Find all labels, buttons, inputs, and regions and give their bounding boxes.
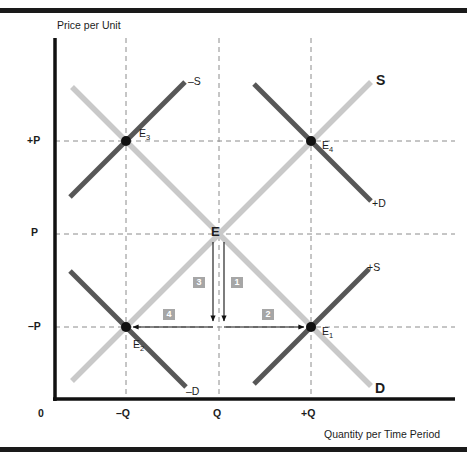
y-tick-minus-p: –P: [28, 320, 41, 332]
plot-canvas: [0, 13, 467, 447]
y-axis-title: Price per Unit: [57, 19, 121, 31]
curve-label-supply-base: S: [376, 72, 385, 88]
equilibrium-label-e: E: [211, 224, 220, 239]
equilibrium-label-e3-sub: 3: [146, 133, 150, 142]
shift-badge-1: 1: [231, 277, 243, 288]
curve-label-demand-shift-right: +D: [372, 197, 386, 209]
x-axis-title: Quantity per Time Period: [324, 428, 440, 440]
x-tick-minus-q: –Q: [116, 407, 130, 419]
equilibrium-label-e-text: E: [211, 224, 220, 239]
equilibrium-label-e1: E1: [322, 325, 333, 340]
curve-label-supply-shift-right: +S: [367, 261, 380, 273]
curve-label-demand-shift-left: –D: [186, 385, 199, 397]
equilibrium-label-e1-text: E: [322, 325, 329, 337]
equilibrium-label-e1-sub: 1: [329, 331, 333, 340]
curve-label-demand-base: D: [375, 380, 385, 396]
y-tick-p: P: [31, 226, 38, 238]
axes: [53, 38, 455, 401]
equilibrium-label-e4: E4: [322, 139, 333, 154]
x-tick-plus-q: +Q: [301, 407, 315, 419]
dot-e2: [121, 322, 131, 332]
shift-badge-3: 3: [193, 277, 205, 288]
dot-e1: [306, 322, 316, 332]
shift-badge-2: 2: [262, 309, 274, 320]
curve-demand-base: [72, 87, 371, 386]
dot-e3: [121, 136, 131, 146]
figure-page: Price per Unit Quantity per Time Period …: [0, 0, 467, 457]
y-tick-plus-p: +P: [27, 134, 40, 146]
x-tick-q: Q: [213, 407, 221, 419]
shift-badge-4: 4: [163, 309, 175, 320]
equilibrium-label-e4-sub: 4: [329, 145, 333, 154]
dot-e4: [306, 136, 316, 146]
equilibrium-label-e4-text: E: [322, 139, 329, 151]
supply-demand-plot: Price per Unit Quantity per Time Period …: [0, 13, 467, 447]
x-tick-zero: 0: [38, 407, 44, 419]
equilibrium-label-e2-sub: 2: [140, 344, 144, 353]
equilibrium-label-e2: E2: [133, 338, 144, 353]
equilibrium-label-e3: E3: [139, 127, 150, 142]
reference-gridlines: [55, 38, 455, 400]
page-rule-bottom: [0, 447, 467, 452]
equilibrium-label-e2-text: E: [133, 338, 140, 350]
curve-label-supply-shift-left: –S: [188, 75, 201, 87]
equilibrium-label-e3-text: E: [139, 127, 146, 139]
